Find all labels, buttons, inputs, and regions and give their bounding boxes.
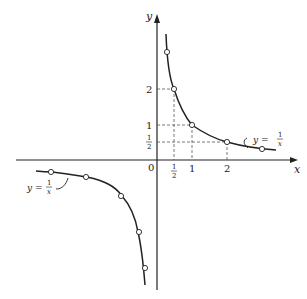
y-tick-2: 2 — [146, 84, 152, 95]
x-tick-half-den: 2 — [172, 172, 176, 180]
equation-lower-den: x — [47, 188, 51, 196]
curve-quadrant-1 — [166, 34, 276, 150]
equation-upper-lhs: y = — [252, 135, 269, 145]
equation-lower-num: 1 — [47, 179, 51, 187]
x-axis-label: x — [294, 163, 301, 176]
y-axis-label: y — [145, 10, 153, 23]
y-tick-half-den: 2 — [147, 143, 151, 151]
y-axis-arrow-icon — [154, 14, 160, 23]
equation-upper-den: x — [278, 140, 282, 148]
diagram-canvas: y x 0 2 1 1 2 1 2 1 2 y = 1 x y = 1 x — [0, 0, 307, 299]
equation-lower-lhs: y = — [26, 183, 43, 193]
y-tick-1: 1 — [146, 120, 152, 131]
x-tick-half-num: 1 — [172, 163, 176, 171]
x-tick-2: 2 — [224, 163, 230, 174]
curve-quadrant-3 — [36, 171, 145, 285]
graph-svg: y x 0 2 1 1 2 1 2 1 2 y = 1 x y = 1 x — [0, 0, 307, 299]
label-pointer-lower — [56, 178, 68, 189]
origin-label: 0 — [148, 162, 154, 173]
y-tick-half-num: 1 — [147, 134, 151, 142]
equation-upper-num: 1 — [278, 131, 282, 139]
x-tick-1: 1 — [189, 163, 195, 174]
